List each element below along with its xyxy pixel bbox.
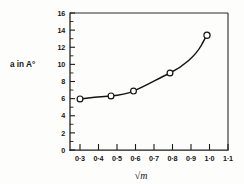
x-tick-label: 0·6 xyxy=(131,154,141,163)
x-tick-label: 0·4 xyxy=(94,154,104,163)
y-tick-label: 12 xyxy=(57,43,65,52)
x-tick-labels: 0·3 0·4 0·5 0·6 0·7 0·8 0·9 1·0 1·1 xyxy=(75,154,233,163)
y-tick-label: 8 xyxy=(61,77,65,86)
y-tick-label: 16 xyxy=(57,9,65,18)
y-tick-labels: 0 2 4 6 8 10 12 14 16 xyxy=(57,9,65,155)
data-point xyxy=(204,32,210,38)
y-tick-label: 14 xyxy=(57,26,65,35)
data-point xyxy=(77,96,83,102)
x-tick-label: 0·9 xyxy=(186,154,196,163)
data-series-curve xyxy=(80,35,207,99)
data-point xyxy=(131,88,137,94)
y-tick-label: 4 xyxy=(61,111,65,120)
chart-plot-area: 0 2 4 6 8 10 12 14 16 0·3 0·4 0·5 0·6 0·… xyxy=(0,0,244,184)
x-tick-label: 0·5 xyxy=(112,154,122,163)
y-tick-label: 10 xyxy=(57,60,65,69)
y-tick-label: 6 xyxy=(61,94,65,103)
y-axis-label: a in A° xyxy=(10,60,35,69)
y-tick-label: 0 xyxy=(61,146,65,155)
x-tick-label: 1·0 xyxy=(205,154,215,163)
data-point xyxy=(167,70,173,76)
x-axis-title: √m xyxy=(135,170,148,181)
data-point xyxy=(108,93,114,99)
x-major-ticks xyxy=(80,144,228,150)
x-tick-label: 0·3 xyxy=(75,154,85,163)
series-line xyxy=(80,35,207,99)
x-tick-label: 0·8 xyxy=(168,154,178,163)
x-axis-title-text: √m xyxy=(135,170,148,181)
data-point-markers xyxy=(77,32,210,102)
x-tick-label: 1·1 xyxy=(223,154,233,163)
x-tick-label: 0·7 xyxy=(149,154,159,163)
chart-figure: 0 2 4 6 8 10 12 14 16 0·3 0·4 0·5 0·6 0·… xyxy=(0,0,244,184)
y-major-ticks xyxy=(70,13,75,150)
y-tick-label: 2 xyxy=(61,129,65,138)
